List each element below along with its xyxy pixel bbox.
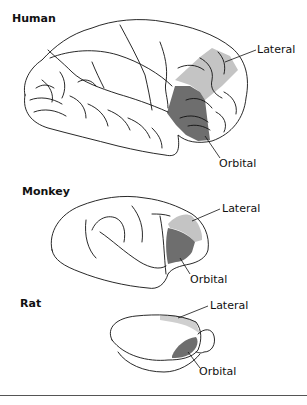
- monkey-lateral-leader: [192, 209, 220, 221]
- human-orbital-leader: [205, 136, 220, 158]
- brain-figure: [0, 0, 307, 405]
- rat-lateral-leader: [178, 306, 208, 318]
- human-brain: [24, 20, 247, 156]
- monkey-orbital-label: Orbital: [190, 273, 227, 286]
- species-label-rat: Rat: [20, 297, 41, 310]
- rat-brain: [110, 315, 214, 372]
- human-orbital-label: Orbital: [219, 157, 256, 170]
- species-label-human: Human: [12, 12, 56, 25]
- human-lateral-label: Lateral: [257, 43, 295, 56]
- rat-orbital-region: [172, 337, 198, 358]
- rat-orbital-label: Orbital: [199, 365, 236, 378]
- rat-lateral-region: [160, 315, 200, 334]
- monkey-lateral-label: Lateral: [222, 202, 260, 215]
- bottom-rule: [0, 395, 307, 396]
- rat-lateral-label: Lateral: [210, 299, 248, 312]
- species-label-monkey: Monkey: [22, 185, 70, 198]
- monkey-brain: [51, 196, 208, 288]
